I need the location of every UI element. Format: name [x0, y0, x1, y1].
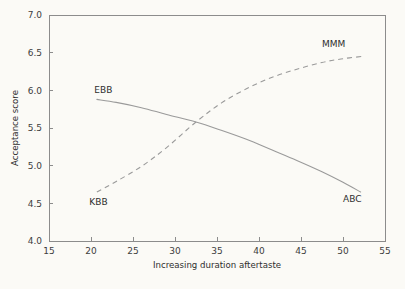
x-axis: 152025303540455055 — [43, 237, 390, 256]
series-label-abc: ABC — [343, 194, 361, 204]
x-tick-label: 50 — [337, 246, 349, 256]
x-tick-label: 40 — [253, 246, 265, 256]
plot-frame — [49, 15, 385, 241]
y-tick-label: 4.0 — [28, 236, 43, 246]
data-series-group — [97, 56, 362, 192]
series-label-mmm: MMM — [322, 39, 345, 49]
x-tick-label: 55 — [379, 246, 390, 256]
series-label-ebb: EBB — [94, 85, 112, 95]
x-tick-label: 45 — [295, 246, 306, 256]
acceptance-score-line-chart: 152025303540455055 4.04.55.05.56.06.57.0… — [0, 0, 405, 289]
x-tick-label: 20 — [85, 246, 97, 256]
y-tick-label: 5.5 — [28, 123, 42, 133]
series-line-ebb — [97, 99, 361, 192]
series-label-kbb: KBB — [89, 197, 107, 207]
y-tick-label: 7.0 — [28, 10, 43, 20]
y-axis-title: Acceptance score — [10, 90, 20, 166]
y-tick-label: 4.5 — [28, 199, 42, 209]
x-tick-label: 15 — [43, 246, 54, 256]
y-tick-label: 6.0 — [28, 86, 43, 96]
x-tick-label: 25 — [127, 246, 138, 256]
series-annotations: EBBABCKBBMMM — [89, 39, 361, 207]
chart-container: 152025303540455055 4.04.55.05.56.06.57.0… — [0, 0, 405, 289]
y-tick-label: 6.5 — [28, 48, 42, 58]
y-tick-label: 5.0 — [28, 161, 43, 171]
x-axis-title: Increasing duration aftertaste — [153, 260, 281, 270]
x-tick-label: 30 — [169, 246, 181, 256]
x-tick-label: 35 — [211, 246, 222, 256]
